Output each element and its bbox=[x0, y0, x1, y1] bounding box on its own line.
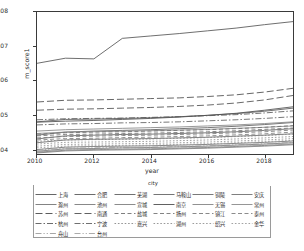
x-tick-label: 2010 bbox=[27, 157, 42, 164]
legend-item[interactable]: 杭州 bbox=[35, 219, 74, 229]
legend-line-swatch-icon bbox=[153, 221, 175, 226]
legend-label: 盐城 bbox=[137, 210, 147, 217]
legend-title: city bbox=[34, 180, 272, 186]
legend-item[interactable]: 金华 bbox=[231, 219, 270, 229]
x-tick-label: 2012 bbox=[84, 157, 99, 164]
y-tick-label: 0.04 bbox=[0, 146, 8, 153]
legend-line-swatch-icon bbox=[231, 202, 253, 207]
legend-line-swatch-icon bbox=[153, 202, 175, 207]
legend-item[interactable]: 嘉兴 bbox=[114, 219, 153, 229]
legend-line-swatch-icon bbox=[114, 221, 136, 226]
legend-line-swatch-icon bbox=[35, 221, 57, 226]
line-series bbox=[37, 88, 293, 102]
legend-item[interactable]: 扬州 bbox=[153, 209, 192, 219]
legend-label: 台州 bbox=[97, 230, 107, 237]
legend-line-swatch-icon bbox=[231, 221, 253, 226]
legend-line-swatch-icon bbox=[153, 192, 175, 197]
legend-line-swatch-icon bbox=[231, 211, 253, 216]
legend-label: 扬州 bbox=[176, 210, 186, 217]
legend-line-swatch-icon bbox=[231, 192, 253, 197]
legend-label: 湖州 bbox=[176, 220, 186, 227]
legend-label: 合肥 bbox=[97, 191, 107, 198]
legend-item[interactable]: 舟山 bbox=[35, 228, 74, 238]
legend-line-swatch-icon bbox=[74, 202, 96, 207]
legend-line-swatch-icon bbox=[114, 211, 136, 216]
legend-line-swatch-icon bbox=[192, 192, 214, 197]
legend-item[interactable]: 南京 bbox=[153, 200, 192, 210]
legend-item[interactable]: 无锡 bbox=[192, 200, 231, 210]
legend-line-swatch-icon bbox=[192, 202, 214, 207]
legend-line-swatch-icon bbox=[35, 231, 57, 236]
legend-label: 镇江 bbox=[215, 210, 225, 217]
y-tick-label: 0.08 bbox=[0, 7, 8, 14]
legend-item[interactable]: 滁州 bbox=[35, 200, 74, 210]
y-tick-label: 0.05 bbox=[0, 111, 8, 118]
legend-item[interactable]: 南通 bbox=[74, 209, 113, 219]
legend-item[interactable]: 台州 bbox=[74, 228, 113, 238]
legend-label: 泰州 bbox=[254, 210, 264, 217]
x-axis-label: year bbox=[0, 167, 304, 174]
legend-item[interactable]: 上海 bbox=[35, 190, 74, 200]
legend-line-swatch-icon bbox=[35, 192, 57, 197]
legend-line-swatch-icon bbox=[153, 211, 175, 216]
legend-label: 池州 bbox=[97, 201, 107, 208]
line-series bbox=[37, 95, 293, 110]
y-axis-label: m_score1 bbox=[23, 34, 30, 94]
legend-item[interactable]: 芜湖 bbox=[114, 190, 153, 200]
legend-label: 舟山 bbox=[58, 230, 68, 237]
legend-label: 嘉兴 bbox=[137, 220, 147, 227]
legend-item[interactable]: 湖州 bbox=[153, 219, 192, 229]
y-tick-label: 0.06 bbox=[0, 76, 8, 83]
legend-item[interactable]: 镇江 bbox=[192, 209, 231, 219]
x-tick-mark bbox=[36, 155, 37, 158]
legend-label: 芜湖 bbox=[137, 191, 147, 198]
legend-label: 常州 bbox=[254, 201, 264, 208]
x-tick-mark bbox=[265, 155, 266, 158]
legend-item[interactable]: 盐城 bbox=[114, 209, 153, 219]
legend-line-swatch-icon bbox=[114, 202, 136, 207]
legend-entries: 上海合肥芜湖马鞍山铜陵安庆滁州池州宣城南京无锡常州苏州南通盐城扬州镇江泰州杭州宁… bbox=[35, 190, 271, 238]
x-tick-mark bbox=[208, 155, 209, 158]
x-tick-label: 2016 bbox=[199, 157, 214, 164]
x-tick-label: 2014 bbox=[142, 157, 157, 164]
legend-label: 绍兴 bbox=[215, 220, 225, 227]
y-tick-label: 0.07 bbox=[0, 42, 8, 49]
legend-label: 金华 bbox=[254, 220, 264, 227]
legend-item[interactable]: 宁波 bbox=[74, 219, 113, 229]
legend-line-swatch-icon bbox=[192, 211, 214, 216]
legend-label: 南京 bbox=[176, 201, 186, 208]
legend-line-swatch-icon bbox=[35, 211, 57, 216]
x-tick-mark bbox=[151, 155, 152, 158]
plot-area bbox=[36, 11, 294, 155]
legend-item[interactable]: 合肥 bbox=[74, 190, 113, 200]
legend-label: 苏州 bbox=[58, 210, 68, 217]
legend-item[interactable]: 池州 bbox=[74, 200, 113, 210]
legend-label: 铜陵 bbox=[215, 191, 225, 198]
legend-item[interactable]: 常州 bbox=[231, 200, 270, 210]
line-series-svg bbox=[37, 12, 293, 154]
legend-label: 无锡 bbox=[215, 201, 225, 208]
legend-line-swatch-icon bbox=[74, 192, 96, 197]
legend-label: 宣城 bbox=[137, 201, 147, 208]
x-tick-mark bbox=[93, 155, 94, 158]
legend-label: 上海 bbox=[58, 191, 68, 198]
legend-line-swatch-icon bbox=[35, 202, 57, 207]
legend-line-swatch-icon bbox=[74, 221, 96, 226]
legend-label: 宁波 bbox=[97, 220, 107, 227]
legend-box: city 上海合肥芜湖马鞍山铜陵安庆滁州池州宣城南京无锡常州苏州南通盐城扬州镇江… bbox=[33, 185, 271, 238]
legend-line-swatch-icon bbox=[74, 231, 96, 236]
line-series bbox=[37, 107, 293, 122]
legend-item[interactable]: 绍兴 bbox=[192, 219, 231, 229]
legend-item[interactable]: 苏州 bbox=[35, 209, 74, 219]
legend-label: 杭州 bbox=[58, 220, 68, 227]
legend-item[interactable]: 宣城 bbox=[114, 200, 153, 210]
legend-item[interactable]: 泰州 bbox=[231, 209, 270, 219]
legend-item[interactable]: 铜陵 bbox=[192, 190, 231, 200]
legend-line-swatch-icon bbox=[114, 192, 136, 197]
legend-line-swatch-icon bbox=[192, 221, 214, 226]
chart-figure: m_score1 0.040.050.060.070.08 2010201220… bbox=[0, 0, 304, 251]
legend-item[interactable]: 马鞍山 bbox=[153, 190, 192, 200]
legend-item[interactable]: 安庆 bbox=[231, 190, 270, 200]
legend-label: 滁州 bbox=[58, 201, 68, 208]
line-series bbox=[37, 108, 293, 122]
